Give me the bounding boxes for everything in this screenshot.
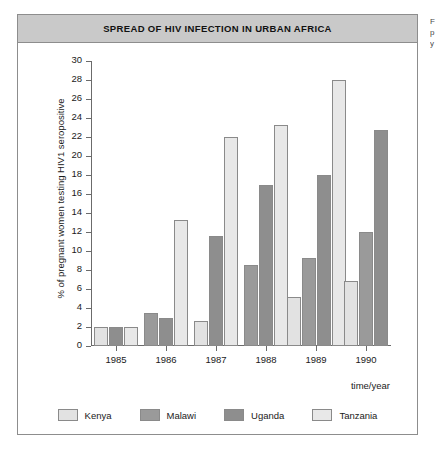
x-axis-tick	[316, 346, 317, 351]
bar-uganda-1986	[159, 318, 173, 347]
x-axis-tick	[216, 346, 217, 351]
page-title: SPREAD OF HIV INFECTION IN URBAN AFRICA	[103, 23, 332, 34]
chart-area: % of pregnant women testing HIV1 seropos…	[18, 43, 417, 436]
x-axis-tick-label: 1988	[255, 354, 276, 365]
y-axis-tick: 18	[86, 175, 91, 176]
x-axis-tick	[116, 346, 117, 351]
margin-note-line-1: F	[430, 16, 444, 27]
y-axis-tick: 30	[86, 61, 91, 62]
y-axis-tick-label: 20	[71, 149, 82, 160]
y-axis-tick: 6	[86, 289, 91, 290]
x-axis-title: time/year	[351, 380, 390, 391]
legend-item-uganda[interactable]: Uganda	[224, 409, 284, 421]
y-axis-tick-label: 12	[71, 225, 82, 236]
margin-note-line-2: p	[430, 27, 444, 38]
bar-kenya-1987	[194, 321, 208, 346]
y-axis-tick-label: 18	[71, 168, 82, 179]
bar-group: 1985	[91, 61, 141, 346]
y-axis-tick: 28	[86, 80, 91, 81]
y-axis-tick-label: 26	[71, 92, 82, 103]
y-axis-tick-label: 22	[71, 130, 82, 141]
bar-group: 1989	[291, 61, 341, 346]
legend-swatch-malawi	[140, 409, 160, 421]
legend-label-kenya: Kenya	[85, 410, 112, 421]
legend-item-malawi[interactable]: Malawi	[140, 409, 197, 421]
bar-tanzania-1987	[224, 137, 238, 346]
y-axis-tick-label: 16	[71, 187, 82, 198]
bar-uganda-1989	[317, 175, 331, 346]
x-axis-tick	[366, 346, 367, 351]
y-axis-tick: 2	[86, 327, 91, 328]
y-axis-tick: 12	[86, 232, 91, 233]
bar-group: 1986	[141, 61, 191, 346]
x-axis-tick-label: 1989	[305, 354, 326, 365]
bar-malawi-1989	[302, 258, 316, 346]
legend-item-kenya[interactable]: Kenya	[58, 409, 112, 421]
bar-tanzania-1985	[124, 327, 138, 346]
legend-label-tanzania: Tanzania	[339, 410, 377, 421]
legend-swatch-tanzania	[312, 409, 332, 421]
x-axis-tick-label: 1990	[355, 354, 376, 365]
legend-swatch-uganda	[224, 409, 244, 421]
y-axis-tick: 14	[86, 213, 91, 214]
margin-notes: F p y	[430, 16, 444, 49]
y-axis-tick: 16	[86, 194, 91, 195]
y-axis-title: % of pregnant women testing HIV1 seropos…	[55, 69, 66, 329]
y-axis-tick-label: 28	[71, 73, 82, 84]
bar-malawi-1990	[359, 232, 373, 346]
y-axis-tick: 26	[86, 99, 91, 100]
y-axis-tick-label: 14	[71, 206, 82, 217]
bar-uganda-1990	[374, 130, 388, 346]
y-axis-tick-label: 30	[71, 54, 82, 65]
plot-area: 198519861987198819891990 024681012141618…	[91, 61, 391, 346]
bar-kenya-1989	[287, 297, 301, 346]
y-axis-tick-label: 8	[77, 263, 82, 274]
legend-label-malawi: Malawi	[167, 410, 197, 421]
bar-group: 1988	[241, 61, 291, 346]
chart-title-bar: SPREAD OF HIV INFECTION IN URBAN AFRICA	[18, 15, 417, 43]
margin-note-line-3: y	[430, 38, 444, 49]
bar-malawi-1988	[244, 265, 258, 346]
x-axis-tick	[166, 346, 167, 351]
x-axis-tick-label: 1986	[155, 354, 176, 365]
bar-group: 1990	[341, 61, 391, 346]
y-axis-tick: 20	[86, 156, 91, 157]
x-axis-tick-label: 1985	[105, 354, 126, 365]
bar-groups: 198519861987198819891990	[91, 61, 391, 346]
y-axis-tick: 10	[86, 251, 91, 252]
x-axis-tick-label: 1987	[205, 354, 226, 365]
bar-tanzania-1986	[174, 220, 188, 346]
bar-group: 1987	[191, 61, 241, 346]
y-axis-tick: 0	[86, 346, 91, 347]
y-axis-tick-label: 6	[77, 282, 82, 293]
y-axis-tick-label: 0	[77, 339, 82, 350]
bar-uganda-1987	[209, 236, 223, 346]
y-axis-tick: 24	[86, 118, 91, 119]
bar-kenya-1990	[344, 281, 358, 346]
y-axis-tick: 22	[86, 137, 91, 138]
bar-uganda-1985	[109, 327, 123, 346]
bar-malawi-1986	[144, 313, 158, 346]
y-axis-tick-label: 24	[71, 111, 82, 122]
page-root: SPREAD OF HIV INFECTION IN URBAN AFRICA …	[0, 0, 444, 452]
y-axis-tick-label: 2	[77, 320, 82, 331]
y-axis-tick: 8	[86, 270, 91, 271]
legend-label-uganda: Uganda	[251, 410, 284, 421]
chart-card: SPREAD OF HIV INFECTION IN URBAN AFRICA …	[17, 14, 418, 435]
chart-legend: KenyaMalawiUgandaTanzania	[18, 409, 417, 421]
legend-item-tanzania[interactable]: Tanzania	[312, 409, 377, 421]
bar-kenya-1985	[94, 327, 108, 346]
y-axis-tick: 4	[86, 308, 91, 309]
y-axis-tick-label: 4	[77, 301, 82, 312]
y-axis-tick-label: 10	[71, 244, 82, 255]
bar-uganda-1988	[259, 185, 273, 347]
legend-swatch-kenya	[58, 409, 78, 421]
x-axis-tick	[266, 346, 267, 351]
